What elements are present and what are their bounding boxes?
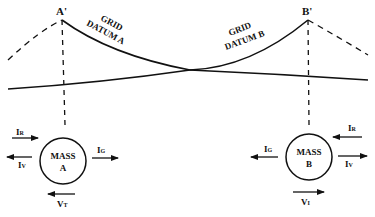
tower-a-dashed-line — [62, 20, 65, 125]
mass-b-label-line1: MASS — [296, 147, 321, 157]
mass-a-ir-label: IR — [16, 127, 25, 137]
dashed-curve-left — [8, 20, 62, 60]
baseline-left — [8, 70, 190, 89]
mass-a-label-line1: MASS — [50, 151, 75, 161]
mass-b-ir-label: IR — [348, 123, 357, 133]
mass-a-label-line2: A — [60, 163, 67, 173]
mass-a-circle — [40, 138, 86, 184]
grid-datum-diagram: A' B' GRID DATUM A GRID DATUM B MASS A I… — [0, 0, 375, 217]
baseline-right — [190, 70, 368, 80]
tower-a-label: A' — [56, 5, 67, 17]
mass-b-label-line2: B — [306, 159, 312, 169]
mass-a-iv-label: IV — [18, 160, 27, 170]
dashed-curve-right — [308, 20, 368, 55]
tower-b-dashed-line — [308, 20, 309, 125]
mass-b-ig-label: IG — [264, 144, 273, 154]
mass-a-ig-label: IG — [97, 145, 106, 155]
tower-b-label: B' — [302, 5, 312, 17]
mass-b-iv-label: IV — [345, 159, 354, 169]
mass-b-circle — [286, 134, 332, 180]
mass-b-vi-label: VI — [301, 197, 311, 207]
grid-datum-a-curve — [62, 20, 190, 70]
mass-a-vt-label: VT — [57, 199, 68, 209]
